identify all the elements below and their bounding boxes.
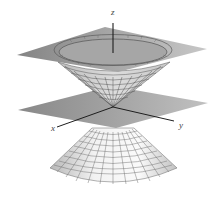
z-axis-label: z [110,7,115,17]
lower-nappe [50,128,177,184]
x-axis-label: x [50,123,55,133]
y-axis-label: y [178,120,183,130]
double-cone-diagram: z [0,0,220,200]
